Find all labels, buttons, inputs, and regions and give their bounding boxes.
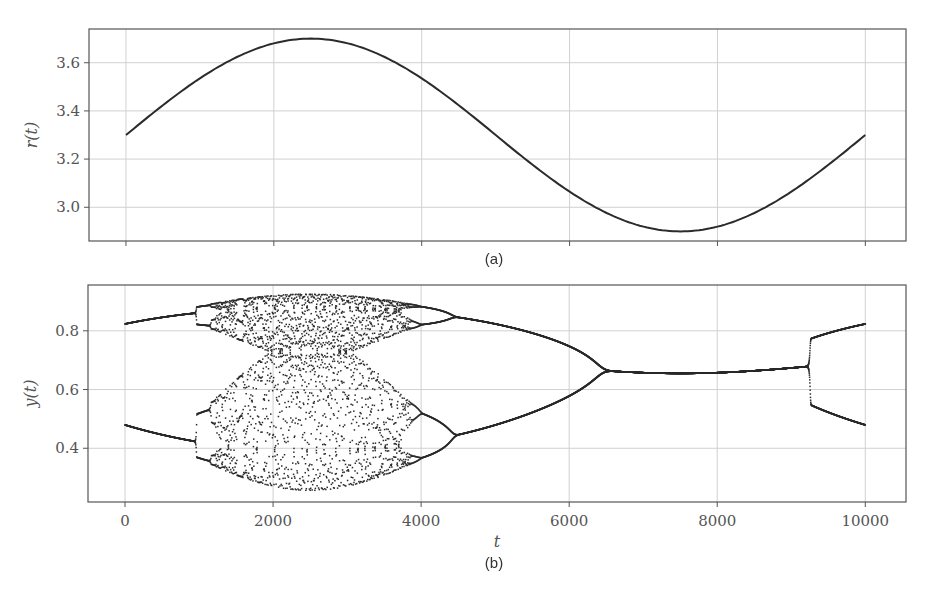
y-tick-label: 3.0 — [56, 198, 80, 216]
panel-a-frame — [89, 29, 906, 241]
x-axis-label: t — [494, 532, 501, 551]
y-tick-label: 3.4 — [56, 102, 80, 120]
x-tick-label: 10000 — [841, 512, 889, 530]
panel-a-rt-plot: 3.03.23.43.6r(t) — [22, 29, 906, 246]
x-tick-label: 2000 — [254, 512, 292, 530]
figure: 3.03.23.43.6r(t) 02000400060008000100000… — [0, 0, 932, 599]
x-tick-label: 0 — [120, 512, 130, 530]
caption-a: (a) — [485, 250, 503, 267]
y-tick-label: 3.6 — [56, 54, 80, 72]
panel-b-yt-plot: 02000400060008000100000.40.60.8y(t)t — [21, 285, 906, 551]
y-tick-label: 3.2 — [56, 150, 80, 168]
panel-b-frame — [88, 285, 906, 502]
y-tick-label: 0.6 — [55, 381, 79, 399]
y-tick-label: 0.4 — [55, 439, 79, 457]
y-axis-label: y(t) — [21, 380, 40, 409]
caption-b: (b) — [485, 554, 503, 571]
x-tick-label: 8000 — [698, 512, 736, 530]
x-tick-label: 4000 — [402, 512, 440, 530]
y-axis-label: r(t) — [22, 122, 41, 149]
y-tick-label: 0.8 — [55, 322, 79, 340]
rt-curve — [126, 39, 865, 232]
x-tick-label: 6000 — [550, 512, 588, 530]
